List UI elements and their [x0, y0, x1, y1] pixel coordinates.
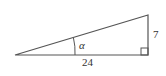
- side-label-adjacent: 24: [82, 56, 94, 68]
- angle-label: α: [79, 39, 85, 51]
- side-label-opposite: 7: [153, 28, 159, 40]
- triangle-diagram: α 24 7: [0, 0, 166, 76]
- angle-arc: [73, 38, 75, 55]
- right-angle-marker: [141, 48, 148, 55]
